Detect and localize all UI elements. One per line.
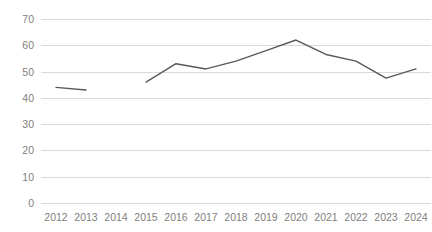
y-tick-label: 50 (22, 66, 34, 77)
x-tick-label: 2017 (194, 211, 217, 223)
series-line-layer (41, 0, 431, 232)
x-tick-label: 2022 (344, 211, 367, 223)
y-axis: 010203040506070 (0, 0, 40, 232)
x-tick-label: 2013 (74, 211, 97, 223)
x-tick-label: 2018 (224, 211, 247, 223)
plot-area (41, 0, 431, 232)
y-tick-label: 60 (22, 40, 34, 51)
y-tick-label: 30 (22, 119, 34, 130)
x-tick-label: 2014 (104, 211, 127, 223)
x-tick-label: 2015 (134, 211, 157, 223)
y-tick-label: 70 (22, 14, 34, 25)
y-tick-label: 40 (22, 92, 34, 103)
x-tick-label: 2023 (374, 211, 397, 223)
x-tick-label: 2016 (164, 211, 187, 223)
y-tick-label: 20 (22, 145, 34, 156)
x-tick-label: 2020 (284, 211, 307, 223)
y-tick-label: 0 (28, 198, 34, 209)
x-tick-label: 2019 (254, 211, 277, 223)
x-tick-label: 2024 (404, 211, 427, 223)
x-axis: 2012201320142015201620172018201920202021… (41, 208, 431, 228)
x-tick-label: 2012 (44, 211, 67, 223)
series-line-segment (56, 87, 86, 90)
series-line-segment (146, 40, 416, 82)
x-tick-label: 2021 (314, 211, 337, 223)
line-chart: 010203040506070 201220132014201520162017… (0, 0, 432, 232)
y-tick-label: 10 (22, 171, 34, 182)
